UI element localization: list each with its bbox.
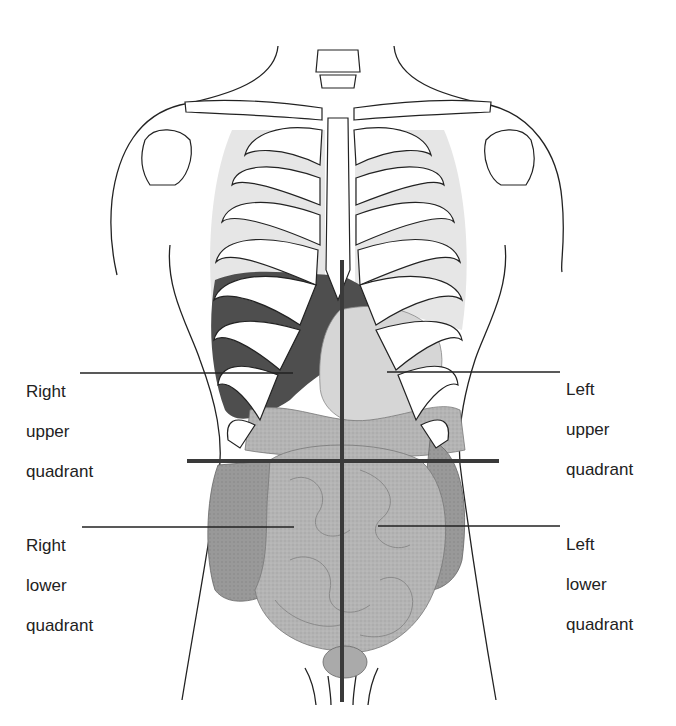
label-right-lower-quadrant: Right lower quadrant xyxy=(26,516,93,656)
bladder xyxy=(323,646,367,678)
small-intestine xyxy=(255,445,446,653)
label-right-upper-quadrant: Right upper quadrant xyxy=(26,362,93,502)
label-left-upper-quadrant: Left upper quadrant xyxy=(566,360,633,500)
label-left-lower-quadrant: Left lower quadrant xyxy=(566,515,633,655)
